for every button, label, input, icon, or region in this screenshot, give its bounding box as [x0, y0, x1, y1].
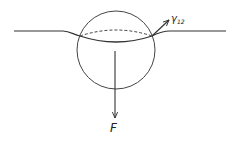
contact-line-back	[80, 30, 152, 36]
force-label: F	[110, 121, 118, 135]
contact-line-front	[80, 36, 152, 42]
surface-tension-label: γ12	[171, 13, 185, 25]
surface-tension-arrow	[152, 20, 169, 36]
interface-left	[14, 31, 80, 36]
interface-right	[152, 31, 226, 36]
diagram-canvas: γ12 F	[0, 0, 235, 141]
sphere	[77, 11, 155, 89]
